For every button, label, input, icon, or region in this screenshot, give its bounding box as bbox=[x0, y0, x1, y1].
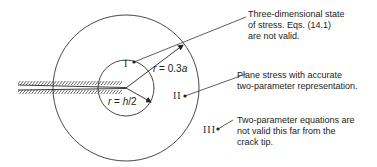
inner-radius-label: r = h/2 bbox=[108, 96, 137, 107]
zone-I-dot bbox=[132, 60, 135, 63]
zone-II-label: II bbox=[173, 90, 182, 101]
crack-tip-diagram: I II III r = 0.3a r = h/2 Three-dimensio… bbox=[0, 0, 377, 167]
zone-II-note: Plane stress with accurate two-parameter… bbox=[237, 70, 358, 92]
zone-III-label: III bbox=[203, 124, 216, 135]
zone-II-dot bbox=[183, 94, 186, 97]
zone-I-leader bbox=[134, 17, 246, 62]
crack-icon bbox=[18, 81, 126, 94]
zone-I-note: Three-dimensional state of stress. Eqs. … bbox=[248, 9, 345, 42]
zone-III-note: Two-parameter equations are not valid th… bbox=[237, 115, 355, 148]
zone-III-dot bbox=[216, 127, 219, 130]
outer-radius-label: r = 0.3a bbox=[153, 63, 187, 74]
zone-I-label: I bbox=[124, 58, 128, 69]
zone-III-leader bbox=[218, 120, 233, 129]
